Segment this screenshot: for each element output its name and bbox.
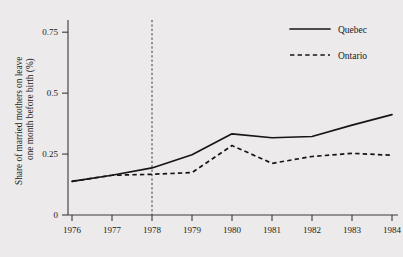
x-tick-label: 1976 [63,225,82,235]
x-tick-label: 1980 [223,225,242,235]
y-axis-title-line-2: one month before birth (%) [25,58,36,160]
x-tick-label: 1983 [343,225,362,235]
x-tick-label: 1984 [383,225,402,235]
y-tick-label: 0.25 [42,149,58,159]
line-chart: Share of married mothers on leave one mo… [0,0,403,257]
y-tick-label: 0.5 [47,88,59,98]
x-tick-label: 1982 [303,225,321,235]
legend-label-quebec: Quebec [338,25,367,35]
y-tick-label: 0 [54,210,59,220]
x-tick-label: 1979 [183,225,202,235]
legend-label-ontario: Ontario [338,51,367,61]
x-tick-label: 1978 [143,225,162,235]
y-axis-title-line-1: Share of married mothers on leave [14,57,24,185]
x-tick-label: 1977 [103,225,122,235]
chart-figure: Share of married mothers on leave one mo… [0,0,403,257]
x-tick-label: 1981 [263,225,281,235]
y-tick-label: 0.75 [42,27,58,37]
